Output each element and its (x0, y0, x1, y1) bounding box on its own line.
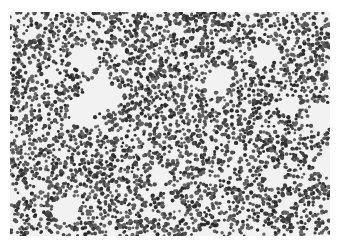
micrograph-image (10, 12, 330, 236)
cell-field (10, 12, 330, 236)
